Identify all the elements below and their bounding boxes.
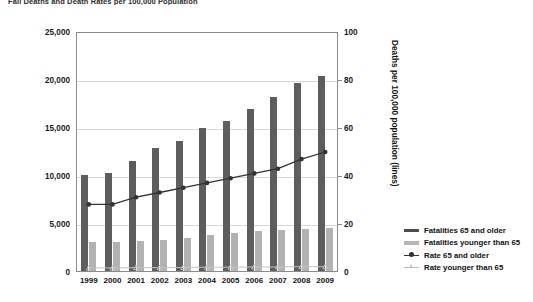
y-tick-right-80: 80	[344, 76, 384, 85]
legend-item-rate-younger: Rate younger than 65	[404, 262, 532, 275]
y-tick-right-0: 0	[344, 268, 384, 277]
rate-older-marker	[205, 181, 210, 186]
x-axis-labels: 1999200020012002200320042005200620072008…	[76, 276, 338, 290]
legend-item-fatalities-younger: Fatalities younger than 65	[404, 237, 532, 250]
legend-label-1: Fatalities younger than 65	[424, 238, 520, 247]
y-tick-right-100: 100	[344, 28, 384, 37]
x-tick-label: 2001	[124, 276, 148, 285]
x-tick-label: 2008	[290, 276, 314, 285]
x-tick-label: 2004	[195, 276, 219, 285]
y-tick-left-10000: 10,000	[18, 172, 70, 181]
x-tick-label: 2003	[172, 276, 196, 285]
rate-older-marker	[323, 150, 328, 155]
y-tick-left-0: 0	[18, 268, 70, 277]
rate-older-marker	[181, 185, 186, 190]
plot-area	[76, 32, 338, 272]
rate-older-marker	[299, 157, 304, 162]
legend-label-2: Rate 65 and older	[424, 251, 489, 260]
rate-older-marker	[276, 166, 281, 171]
rate-older-marker	[157, 190, 162, 195]
legend-item-rate-older: Rate 65 and older	[404, 249, 532, 262]
legend-label-3: Rate younger than 65	[424, 263, 503, 272]
legend-line-triangle-icon	[404, 262, 419, 274]
x-tick-label: 2007	[266, 276, 290, 285]
y-tick-right-20: 20	[344, 220, 384, 229]
x-tick-label: 1999	[77, 276, 101, 285]
chart-legend: Fatalities 65 and older Fatalities young…	[404, 224, 532, 274]
y-axis-right-title: Deaths per 100,000 population (lines)	[390, 40, 400, 187]
x-tick-label: 2000	[101, 276, 125, 285]
legend-label-0: Fatalities 65 and older	[424, 226, 506, 235]
legend-bar-light-icon	[404, 237, 419, 249]
rate-older-marker	[110, 202, 115, 207]
y-tick-left-15000: 15,000	[18, 124, 70, 133]
y-axis-left-ticks: 0 5,000 10,000 15,000 20,000 25,000	[12, 0, 70, 302]
x-tick-label: 2002	[148, 276, 172, 285]
x-tick-label: 2009	[313, 276, 337, 285]
y-tick-left-20000: 20,000	[18, 76, 70, 85]
chart-container: Fall Deaths and Death Rates per 100,000 …	[0, 0, 533, 302]
line-series-layer	[77, 33, 337, 271]
rate-older-marker	[87, 202, 92, 207]
x-tick-label: 2006	[242, 276, 266, 285]
y-tick-right-60: 60	[344, 124, 384, 133]
rate-older-line	[89, 152, 325, 204]
x-tick-label: 2005	[219, 276, 243, 285]
legend-bar-dark-icon	[404, 224, 419, 236]
y-axis-right-ticks: 0 20 40 60 80 100	[344, 0, 384, 302]
rate-older-marker	[134, 195, 139, 200]
y-tick-left-25000: 25,000	[18, 28, 70, 37]
legend-item-fatalities-older: Fatalities 65 and older	[404, 224, 532, 237]
y-tick-left-5000: 5,000	[18, 220, 70, 229]
y-tick-right-40: 40	[344, 172, 384, 181]
rate-younger-line	[89, 267, 325, 268]
legend-line-dot-icon	[404, 249, 419, 261]
rate-older-marker	[228, 176, 233, 181]
rate-older-marker	[252, 171, 257, 176]
